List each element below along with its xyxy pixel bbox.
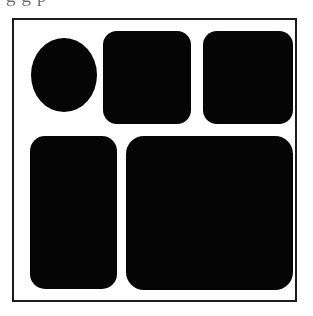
ellipse-top-left (31, 38, 97, 112)
rounded-rect-bottom-left (30, 136, 117, 289)
clipped-caption-strip: g g p (0, 0, 313, 14)
rounded-square-top-right (203, 31, 293, 124)
rounded-square-top-middle (103, 31, 191, 124)
shape-canvas (14, 20, 295, 300)
rounded-rect-bottom-right (126, 136, 293, 290)
figure-border (12, 18, 297, 302)
clipped-caption-text: g g p (6, 0, 307, 7)
figure-page: g g p (0, 0, 313, 316)
